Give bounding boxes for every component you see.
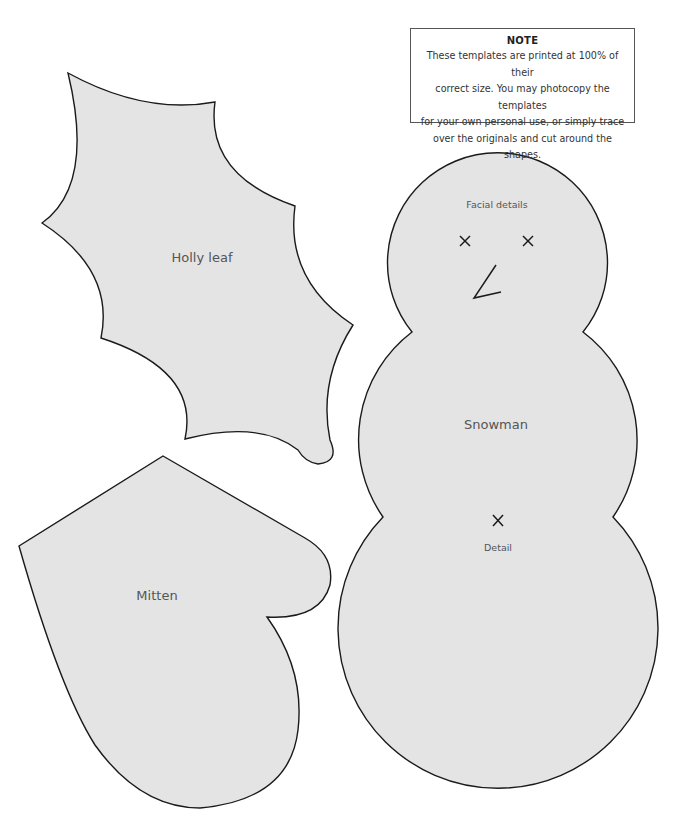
note-line: over the originals and cut around the sh…: [415, 131, 630, 164]
mitten-label: Mitten: [136, 588, 177, 603]
note-body: These templates are printed at 100% of t…: [411, 48, 634, 164]
holly-leaf-label: Holly leaf: [172, 250, 233, 265]
template-page: NOTE These templates are printed at 100%…: [0, 0, 678, 825]
facial-details-label: Facial details: [466, 199, 527, 210]
holly-leaf-shape: [42, 73, 353, 464]
note-line: These templates are printed at 100% of t…: [415, 48, 630, 81]
note-line: for your own personal use, or simply tra…: [415, 114, 630, 131]
note-title: NOTE: [411, 34, 634, 47]
mitten-shape: [19, 456, 331, 808]
snowman-shape: [338, 153, 658, 788]
snowman-label: Snowman: [464, 417, 528, 432]
note-line: correct size. You may photocopy the temp…: [415, 81, 630, 114]
detail-label: Detail: [484, 542, 512, 553]
note-box: NOTE These templates are printed at 100%…: [410, 28, 635, 123]
